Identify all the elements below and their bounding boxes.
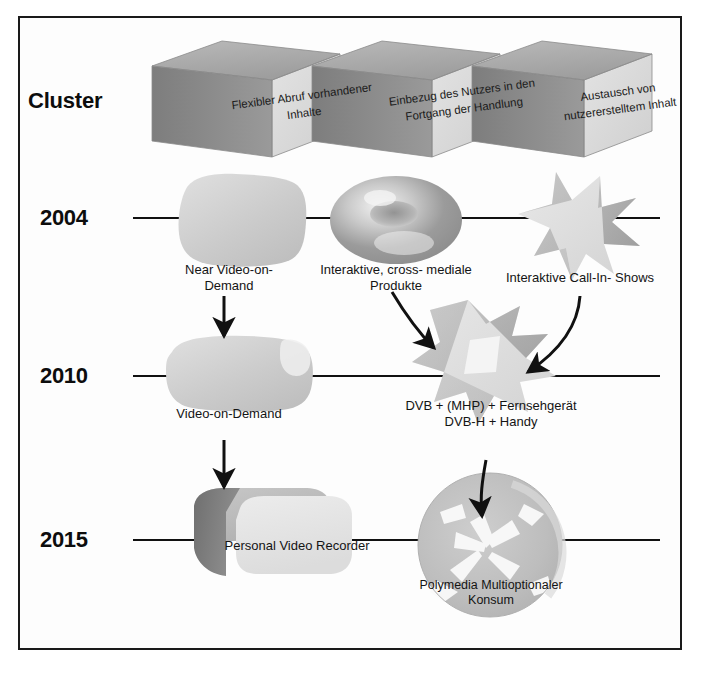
node-label-near-vod: Near Video-on- Demand [166, 262, 292, 293]
node-label-vod: Video-on-Demand [156, 406, 302, 422]
node-label-polymedia: Polymedia Multioptionaler Konsum [412, 578, 570, 608]
node-label-pvr: Personal Video Recorder [222, 538, 372, 554]
node-label-dvb: DVB + (MHP) + Fernsehgerät DVB-H + Handy [404, 398, 578, 429]
year-label-2010: 2010 [40, 363, 132, 389]
year-label-2015: 2015 [40, 527, 132, 553]
node-label-callin: Interaktive Call-In- Shows [500, 270, 660, 286]
cluster-row-header: Cluster [28, 88, 158, 114]
node-label-crossmedia: Interaktive, cross- mediale Produkte [320, 262, 472, 293]
year-label-2004: 2004 [40, 205, 132, 231]
diagram-canvas: Cluster Flexibler Abruf vorhandener Inha… [0, 0, 708, 682]
